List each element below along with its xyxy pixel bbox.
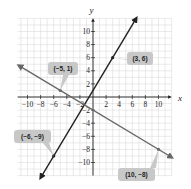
x-axis-label: x	[177, 93, 182, 103]
x-tick-label: −10	[22, 100, 34, 109]
x-tick-label: 2	[104, 100, 108, 109]
callout-label: (−6, −9)	[21, 133, 44, 141]
callout-label: (−5, 1)	[54, 65, 73, 73]
x-tick-label: −4	[63, 100, 71, 109]
x-tick-label: −8	[37, 100, 45, 109]
y-axis-label: y	[89, 5, 94, 15]
x-tick-label: 8	[144, 100, 148, 109]
callout-label: (3, 6)	[132, 55, 147, 63]
data-point	[111, 56, 114, 59]
callout-label: (10, −8)	[125, 171, 148, 179]
y-tick-label: 8	[86, 40, 90, 49]
y-tick-label: 6	[86, 53, 90, 62]
y-tick-label: −10	[78, 158, 90, 167]
x-tick-label: 10	[155, 100, 163, 109]
y-tick-label: −4	[82, 119, 90, 128]
x-tick-label: 4	[117, 100, 121, 109]
data-point	[52, 154, 55, 157]
x-tick-label: −6	[50, 100, 58, 109]
y-tick-label: −6	[82, 132, 90, 141]
y-tick-label: 2	[86, 80, 90, 89]
y-tick-label: 10	[83, 27, 91, 36]
y-tick-label: −8	[82, 145, 90, 154]
y-tick-label: 4	[86, 66, 90, 75]
line-shallow	[19, 66, 172, 158]
data-lines	[19, 18, 172, 177]
point-callout: (10, −8)	[118, 149, 159, 181]
point-callout: (3, 6)	[113, 52, 153, 65]
coordinate-plane: −10−8−6−4−2246810−10−8−6−4−2246810 (3, 6…	[0, 0, 191, 189]
x-tick-label: 6	[130, 100, 134, 109]
